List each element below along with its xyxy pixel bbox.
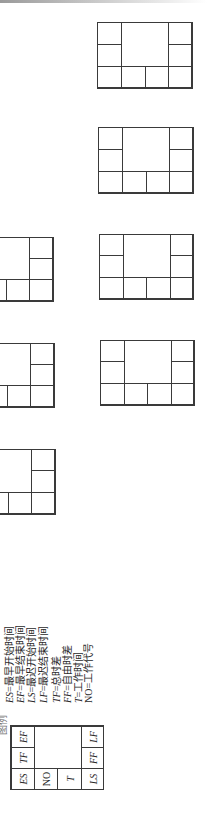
node-box-cell bbox=[170, 234, 194, 256]
key-cell-tf: TF bbox=[11, 747, 35, 769]
legend-key-box: EF TF ES NO T LF FF LS bbox=[10, 725, 104, 790]
node-box-cell bbox=[30, 385, 55, 408]
node-box-cell bbox=[97, 44, 122, 67]
key-cell-no: NO bbox=[34, 768, 58, 790]
empty-node-box bbox=[0, 449, 55, 514]
definition-lf: LF=最迟结束时间 bbox=[38, 626, 49, 703]
node-box-cell bbox=[145, 66, 169, 89]
node-box-cell bbox=[169, 127, 194, 150]
node-box-cell bbox=[31, 470, 56, 493]
definition-es: ES=最早开始时间 bbox=[4, 626, 15, 703]
key-label-es: ES bbox=[18, 773, 29, 784]
definition-ls: LS=最迟开始时间 bbox=[26, 627, 37, 703]
abbr-ef: EF bbox=[15, 691, 26, 703]
node-box-cell bbox=[168, 22, 193, 45]
node-box-cell bbox=[30, 343, 55, 365]
definition-tf: TF=总时差 bbox=[51, 656, 62, 703]
key-label-ls: LS bbox=[87, 774, 98, 785]
empty-node-box bbox=[98, 127, 193, 193]
scan-edge-shadow bbox=[0, 0, 207, 3]
node-box-cell bbox=[98, 149, 123, 172]
node-box-cell bbox=[146, 171, 170, 194]
node-box-cell bbox=[168, 44, 193, 67]
node-box-cell bbox=[98, 171, 123, 194]
node-box-cell bbox=[146, 277, 171, 300]
key-label-tf: TF bbox=[18, 752, 29, 764]
key-label-ff: FF bbox=[87, 752, 98, 764]
legend-title: 图例 bbox=[0, 715, 9, 735]
abbr-es: ES bbox=[4, 692, 15, 703]
text-no: =工作代号 bbox=[83, 643, 94, 689]
node-box-cell bbox=[99, 234, 124, 256]
node-box-cell bbox=[31, 492, 56, 515]
key-label-t: T bbox=[64, 776, 75, 782]
node-box-cell bbox=[121, 66, 146, 89]
node-box-cell bbox=[100, 383, 125, 406]
key-cell-ef: EF bbox=[11, 726, 35, 748]
node-box-cell bbox=[98, 127, 123, 150]
abbr-ff: FF bbox=[62, 691, 73, 703]
node-box-cell bbox=[169, 171, 194, 194]
node-box-cell bbox=[123, 277, 147, 300]
node-box-cell bbox=[171, 361, 195, 384]
node-box-cell bbox=[122, 171, 147, 194]
node-box-cell bbox=[30, 364, 55, 386]
text-lf: =最迟结束时间 bbox=[38, 626, 49, 692]
empty-node-box bbox=[97, 22, 192, 88]
text-es: =最早开始时间 bbox=[4, 626, 15, 692]
definition-ef: EF=最早结束时间 bbox=[15, 625, 26, 703]
node-box-cell bbox=[170, 277, 194, 300]
node-box-cell bbox=[8, 492, 32, 515]
empty-node-box bbox=[100, 340, 194, 405]
node-box-cell bbox=[147, 383, 172, 406]
node-box-cell bbox=[29, 279, 54, 302]
definition-ff: FF=自由时差 bbox=[62, 645, 73, 703]
node-box-cell bbox=[171, 340, 195, 362]
empty-node-box bbox=[0, 343, 54, 407]
node-box-cell bbox=[170, 255, 194, 278]
node-box-cell bbox=[169, 149, 194, 172]
node-box-cell bbox=[7, 385, 31, 408]
node-box-cell bbox=[97, 22, 122, 45]
abbr-lf: LF bbox=[38, 691, 49, 703]
node-box-cell bbox=[171, 383, 195, 406]
text-ls: =最迟开始时间 bbox=[26, 627, 37, 693]
node-box-cell bbox=[100, 340, 125, 362]
node-box-cell bbox=[29, 237, 54, 259]
text-ef: =最早结束时间 bbox=[15, 625, 26, 691]
node-box-cell bbox=[124, 383, 148, 406]
text-tf: =总时差 bbox=[51, 656, 62, 692]
key-label-ef: EF bbox=[18, 731, 29, 743]
node-box-cell bbox=[168, 66, 193, 89]
key-label-lf: LF bbox=[87, 731, 98, 743]
key-cell-lf: LF bbox=[81, 726, 104, 748]
node-box-cell bbox=[100, 361, 125, 384]
empty-node-box bbox=[0, 237, 53, 301]
key-cell-t: T bbox=[57, 768, 82, 790]
empty-node-box bbox=[99, 234, 193, 299]
abbr-no: NO bbox=[83, 689, 94, 703]
abbr-tf: TF bbox=[51, 691, 62, 703]
node-box-cell bbox=[31, 449, 56, 471]
key-cell-blank bbox=[34, 726, 82, 769]
key-label-no: NO bbox=[41, 772, 52, 786]
text-ff: =自由时差 bbox=[62, 645, 73, 691]
definition-no: NO=工作代号 bbox=[83, 643, 94, 703]
node-box-cell bbox=[99, 255, 124, 278]
node-box-cell bbox=[97, 66, 122, 89]
abbr-ls: LS bbox=[26, 692, 37, 703]
key-cell-es: ES bbox=[11, 768, 35, 790]
key-cell-ls: LS bbox=[81, 768, 104, 790]
node-box-cell bbox=[29, 258, 54, 280]
node-box-cell bbox=[6, 279, 30, 302]
key-cell-ff: FF bbox=[81, 747, 104, 769]
node-box-cell bbox=[99, 277, 124, 300]
